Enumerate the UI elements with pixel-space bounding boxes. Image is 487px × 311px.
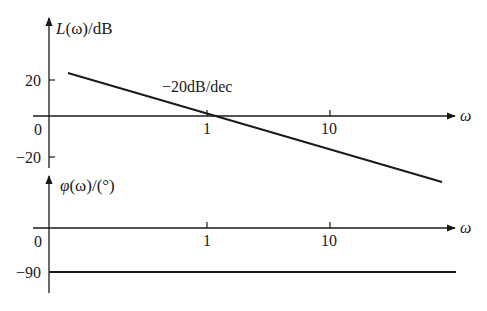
magnitude-plot: L(ω)/dB 20 0 −20 1 10 ω −20dB/dec <box>16 18 471 182</box>
phase-tick-label-neg90: −90 <box>16 264 41 281</box>
tick-label-10: 10 <box>321 120 337 137</box>
tick-label-neg20: −20 <box>16 149 41 166</box>
bode-plot-figure: L(ω)/dB 20 0 −20 1 10 ω −20dB/dec φ(ω)/(… <box>0 0 487 311</box>
phase-tick-label-0: 0 <box>34 233 42 250</box>
slope-annotation: −20dB/dec <box>162 78 232 95</box>
phase-tick-label-10: 10 <box>321 232 337 249</box>
magnitude-y-label: L(ω)/dB <box>55 19 113 38</box>
phase-tick-label-1: 1 <box>203 232 211 249</box>
phase-x-label: ω <box>460 219 471 236</box>
phase-plot: φ(ω)/(°) 0 −90 1 10 ω <box>16 176 471 293</box>
magnitude-x-label: ω <box>460 107 471 124</box>
tick-label-0: 0 <box>34 121 42 138</box>
tick-label-1: 1 <box>203 120 211 137</box>
phase-y-label: φ(ω)/(°) <box>60 176 115 195</box>
magnitude-curve <box>68 73 442 182</box>
tick-label-20: 20 <box>25 72 41 89</box>
